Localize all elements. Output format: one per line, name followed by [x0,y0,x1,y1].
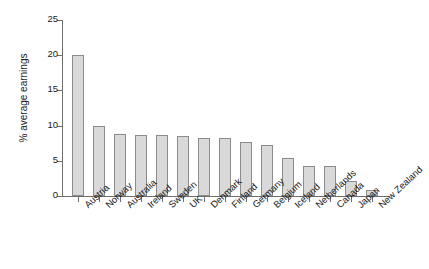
y-tick-label: 20 [47,48,58,59]
x-axis-labels: AustriaNorwayAustraliaIrelandSwedenUKDen… [62,200,422,269]
y-axis-title: % average earnings [12,0,34,196]
y-axis-line [62,20,63,197]
y-tick-label: 0 [53,189,58,200]
y-tick-label: 10 [47,119,58,130]
y-tick-label: 5 [53,154,58,165]
plot-area: 0510152025 [62,20,390,197]
bar [72,55,84,197]
bar [198,138,210,196]
y-tick-label: 25 [47,13,58,24]
y-tick-label: 15 [47,83,58,94]
bar-chart-figure: % average earnings 0510152025 AustriaNor… [0,0,429,269]
